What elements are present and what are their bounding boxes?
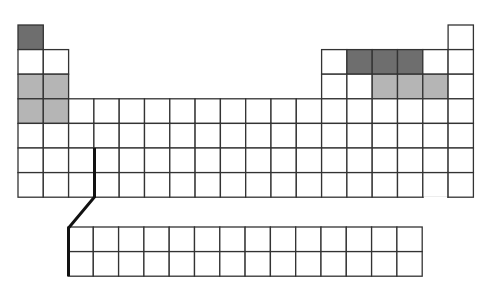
f-block-cell	[270, 252, 295, 277]
f-block-grid	[68, 227, 422, 276]
element-cell	[322, 148, 347, 173]
element-cell	[448, 99, 473, 124]
gap-mask	[424, 196, 447, 199]
element-cell	[372, 50, 397, 75]
f-block-cell	[397, 227, 422, 252]
element-cell	[398, 173, 423, 198]
element-cell	[119, 173, 144, 198]
element-cell	[347, 99, 372, 124]
element-cell	[347, 173, 372, 198]
element-cell	[322, 173, 347, 198]
f-block-cell	[144, 252, 169, 277]
element-cell	[347, 74, 372, 99]
f-block-cell	[119, 252, 144, 277]
element-cell	[43, 99, 68, 124]
f-block-cell	[296, 252, 321, 277]
element-cell	[220, 123, 245, 148]
f-block-cell	[119, 227, 144, 252]
element-cell	[119, 148, 144, 173]
f-block-cell	[346, 252, 371, 277]
element-cell	[322, 50, 347, 75]
element-cell	[246, 99, 271, 124]
f-block-cell	[169, 227, 194, 252]
element-cell	[43, 50, 68, 75]
element-cell	[448, 173, 473, 198]
periodic-table-diagram	[0, 0, 493, 297]
f-block-cell	[68, 227, 93, 252]
f-block-cell	[195, 252, 220, 277]
f-block-cell	[346, 227, 371, 252]
element-cell	[271, 173, 296, 198]
element-cell	[170, 99, 195, 124]
element-cell	[69, 123, 94, 148]
element-cell	[18, 123, 43, 148]
f-block-cell	[296, 227, 321, 252]
element-cell	[448, 123, 473, 148]
element-cell	[43, 148, 68, 173]
element-cell	[145, 173, 170, 198]
element-cell	[18, 74, 43, 99]
element-cell	[448, 25, 473, 50]
element-cell	[69, 148, 94, 173]
element-cell	[347, 50, 372, 75]
element-cell	[423, 123, 448, 148]
element-cell	[195, 173, 220, 198]
element-cell	[296, 99, 321, 124]
element-cell	[296, 148, 321, 173]
element-cell	[43, 173, 68, 198]
element-cell	[398, 99, 423, 124]
element-cell	[347, 123, 372, 148]
f-block-cell	[245, 252, 270, 277]
element-cell	[246, 123, 271, 148]
f-block-cell	[245, 227, 270, 252]
element-cell	[423, 99, 448, 124]
element-cell	[271, 123, 296, 148]
element-cell	[94, 123, 119, 148]
element-cell	[246, 148, 271, 173]
element-cell	[296, 173, 321, 198]
element-cell	[195, 148, 220, 173]
element-cell	[398, 74, 423, 99]
f-block-cell	[372, 252, 397, 277]
element-cell	[448, 50, 473, 75]
element-cell	[170, 173, 195, 198]
f-block-cell	[93, 227, 118, 252]
f-block-cell	[195, 227, 220, 252]
element-cell	[18, 50, 43, 75]
element-cell	[423, 148, 448, 173]
element-cell	[195, 99, 220, 124]
element-cell	[423, 74, 448, 99]
element-cell	[220, 148, 245, 173]
element-cell	[43, 74, 68, 99]
f-block-cell	[144, 227, 169, 252]
element-cell	[119, 123, 144, 148]
f-block-cell	[93, 252, 118, 277]
element-cell	[220, 99, 245, 124]
main-table-grid	[18, 25, 473, 199]
element-cell	[145, 99, 170, 124]
element-cell	[145, 123, 170, 148]
f-block-cell	[270, 227, 295, 252]
element-cell	[322, 99, 347, 124]
element-cell	[271, 99, 296, 124]
f-block-cell	[220, 252, 245, 277]
f-block-cell	[372, 227, 397, 252]
element-cell	[170, 148, 195, 173]
element-cell	[18, 173, 43, 198]
element-cell	[296, 123, 321, 148]
f-block-cell	[220, 227, 245, 252]
element-cell	[372, 148, 397, 173]
element-cell	[170, 123, 195, 148]
element-cell	[398, 148, 423, 173]
element-cell	[220, 173, 245, 198]
element-cell	[372, 173, 397, 198]
element-cell	[322, 123, 347, 148]
f-block-cell	[68, 252, 93, 277]
element-cell	[94, 148, 119, 173]
element-cell	[94, 173, 119, 198]
element-cell	[18, 99, 43, 124]
element-cell	[372, 123, 397, 148]
element-cell	[372, 99, 397, 124]
element-cell	[69, 99, 94, 124]
element-cell	[448, 74, 473, 99]
